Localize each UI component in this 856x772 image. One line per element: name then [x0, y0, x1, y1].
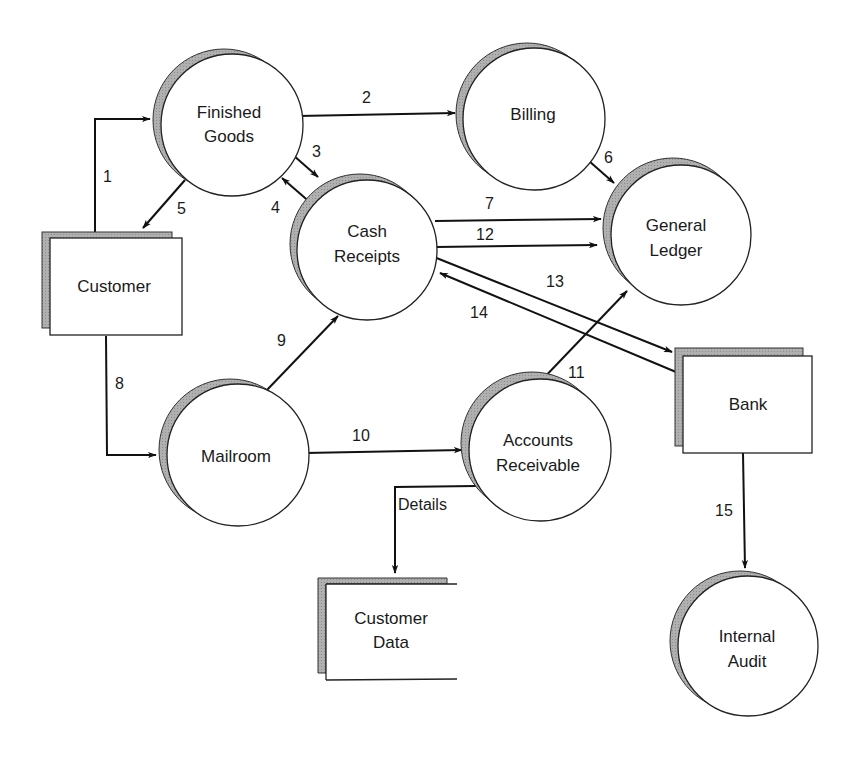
flow-label-4: 4: [271, 199, 280, 216]
process-label: General: [646, 216, 706, 235]
flow-label-8: 8: [115, 375, 124, 392]
entity-bank[interactable]: Bank: [675, 348, 812, 453]
process-label: Receipts: [334, 247, 400, 266]
flow-label-1: 1: [103, 168, 112, 185]
process-label: Audit: [728, 652, 767, 671]
process-general-ledger[interactable]: General Ledger: [603, 158, 751, 305]
flow-11: 11: [538, 291, 627, 384]
process-billing[interactable]: Billing: [456, 43, 605, 190]
datastore-customer-data[interactable]: Customer Data: [318, 578, 457, 680]
entity-label: Customer: [77, 277, 151, 296]
process-mailroom[interactable]: Mailroom: [159, 379, 309, 526]
flow-9: 9: [266, 316, 338, 391]
flow-label-9: 9: [277, 332, 286, 349]
flow-5: 5: [143, 180, 186, 228]
flow-details: Details: [395, 486, 476, 573]
flow-7: 7: [435, 195, 601, 221]
flow-label-5: 5: [177, 200, 186, 217]
process-label: Cash: [347, 222, 387, 241]
flow-label-12: 12: [476, 226, 494, 243]
entity-label: Bank: [729, 395, 768, 414]
flow-8: 8: [106, 336, 156, 455]
flow-label-3: 3: [312, 143, 321, 160]
flow-label-11: 11: [568, 364, 585, 381]
flow-12: 12: [436, 226, 597, 247]
process-label: Ledger: [650, 241, 703, 260]
process-label: Receivable: [496, 456, 580, 475]
flow-15: 15: [715, 453, 745, 568]
flow-label-6: 6: [604, 149, 613, 166]
flow-label-2: 2: [362, 89, 371, 106]
data-flow-diagram: 1 2 3 4 5 6 7 12 13 14 8 9: [0, 0, 856, 772]
flow-label-14: 14: [470, 304, 488, 321]
process-finished-goods[interactable]: Finished Goods: [153, 49, 303, 196]
entity-customer[interactable]: Customer: [42, 232, 182, 335]
flow-label-10: 10: [352, 427, 370, 444]
flow-label-15: 15: [715, 502, 733, 519]
process-label: Mailroom: [201, 447, 271, 466]
flow-label-7: 7: [485, 195, 494, 212]
process-label: Internal: [719, 627, 776, 646]
datastore-label: Data: [373, 633, 409, 652]
process-accounts-receivable[interactable]: Accounts Receivable: [461, 372, 611, 521]
process-cash-receipts[interactable]: Cash Receipts: [290, 174, 437, 320]
process-label: Finished: [197, 103, 261, 122]
flow-label-details: Details: [398, 496, 447, 513]
process-internal-audit[interactable]: Internal Audit: [670, 571, 818, 716]
process-label: Billing: [510, 105, 555, 124]
process-label: Accounts: [503, 431, 573, 450]
flow-label-13: 13: [546, 273, 564, 290]
flow-10: 10: [305, 427, 462, 453]
flow-1: 1: [95, 119, 150, 238]
process-label: Goods: [204, 127, 254, 146]
datastore-label: Customer: [354, 609, 428, 628]
flow-2: 2: [298, 89, 455, 116]
